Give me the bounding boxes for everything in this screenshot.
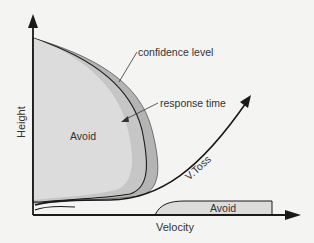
avoid-lower-label: Avoid bbox=[210, 203, 236, 214]
confidence-leader bbox=[119, 52, 137, 82]
lower-curve bbox=[35, 206, 75, 210]
diagram-graphics bbox=[0, 0, 314, 243]
x-axis-label: Velocity bbox=[156, 222, 194, 233]
y-axis-label: Height bbox=[16, 106, 27, 138]
x-axis-arrowhead-icon bbox=[285, 210, 301, 220]
diagram-canvas: confidence level response time Avoid Avo… bbox=[0, 0, 314, 243]
avoid-upper-label: Avoid bbox=[70, 131, 96, 142]
vtoss-arrowhead-icon bbox=[240, 95, 251, 108]
confidence-level-label: confidence level bbox=[138, 47, 213, 58]
response-time-label: response time bbox=[160, 98, 226, 109]
y-axis-arrowhead-icon bbox=[28, 14, 38, 28]
